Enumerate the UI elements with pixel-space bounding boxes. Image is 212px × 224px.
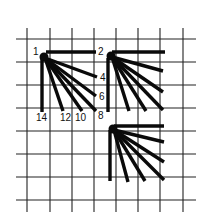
stitch-number-label: 4 xyxy=(100,72,106,83)
stitch-diagram: 12468101214 xyxy=(0,0,212,224)
stitch-number-label: 10 xyxy=(75,112,87,123)
fan-hub xyxy=(40,53,49,62)
fan-hub xyxy=(107,52,116,61)
fan-hub xyxy=(109,125,118,134)
stitch-number-label: 8 xyxy=(98,110,104,121)
stitch-number-label: 14 xyxy=(36,112,48,123)
fan-3 xyxy=(109,125,165,183)
stitch-number-label: 12 xyxy=(60,112,72,123)
fan-2 xyxy=(107,52,166,113)
stitch-number-label: 1 xyxy=(33,46,39,57)
stitch-number-label: 2 xyxy=(98,46,104,57)
fan-1 xyxy=(40,52,98,112)
stitch-number-label: 6 xyxy=(99,91,105,102)
